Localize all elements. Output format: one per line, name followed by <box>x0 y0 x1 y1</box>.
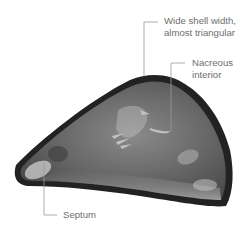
label-nacreous-line1: Nacreous <box>192 57 233 69</box>
label-nacreous-line2: interior <box>192 69 233 81</box>
shell-shadow-spot <box>48 146 68 162</box>
label-shell-width: Wide shell width, almost triangular <box>164 15 236 39</box>
shell-highlight-right <box>193 179 217 191</box>
label-shell-width-line1: Wide shell width, <box>164 15 236 27</box>
leader-line-shell-width <box>144 22 158 76</box>
label-septum: Septum <box>63 209 96 221</box>
label-septum-text: Septum <box>63 209 96 221</box>
label-nacreous-interior: Nacreous interior <box>192 57 233 81</box>
shell-diagram: Wide shell width, almost triangular Nacr… <box>0 0 250 235</box>
label-shell-width-line2: almost triangular <box>164 27 236 39</box>
